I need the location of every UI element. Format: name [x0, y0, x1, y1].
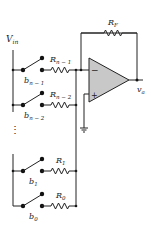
- output-label: va: [137, 85, 145, 95]
- ellipsis: ⋮: [10, 124, 20, 135]
- resistor-icon: [42, 67, 76, 73]
- branch-n-2: Rn − 2 bn − 2: [12, 90, 78, 121]
- resistor-icon: [42, 203, 76, 209]
- branch-1: R1 b1: [12, 156, 78, 187]
- feedback-resistor-label: RF: [107, 18, 118, 28]
- dac-circuit-diagram: Vin ⋮ Rn − 1 bn − 1 Rn − 2 bn − 2: [0, 0, 151, 232]
- resistor-icon: [42, 168, 76, 174]
- branch-n-1: Rn − 1 bn − 1: [12, 55, 78, 86]
- vin-label: Vin: [6, 34, 18, 45]
- ground-wire: [84, 94, 89, 128]
- branch-0: R0 b0: [13, 191, 77, 222]
- switch-arm: [23, 59, 41, 70]
- bit-label: bn − 1: [24, 76, 44, 86]
- minus-input-symbol: −: [91, 65, 99, 75]
- resistor-label: Rn − 1: [49, 55, 71, 65]
- bit-label: bn − 2: [24, 111, 45, 121]
- bit-label: b1: [29, 177, 38, 187]
- resistor-icon: [42, 102, 76, 108]
- bit-label: b0: [29, 212, 38, 222]
- resistor-label: Rn − 2: [49, 90, 72, 100]
- resistor-label: R0: [55, 191, 66, 201]
- resistor-label: R1: [55, 156, 66, 166]
- ground-icon: [80, 128, 88, 132]
- plus-input-symbol: +: [91, 91, 98, 100]
